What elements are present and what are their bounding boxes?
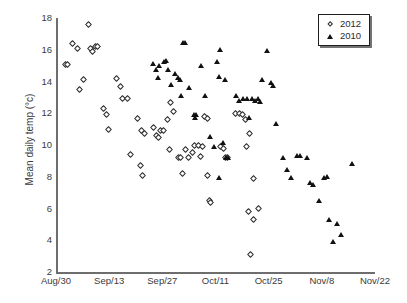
data-point-2012 xyxy=(250,216,257,223)
data-point-2010 xyxy=(217,47,223,52)
open-diamond-icon xyxy=(324,22,336,26)
data-point-2012 xyxy=(141,130,148,137)
data-point-2010 xyxy=(349,161,355,166)
data-point-2010 xyxy=(220,140,226,145)
data-point-2010 xyxy=(222,77,228,82)
scatter-chart: Mean daily temp (°c) 24681012141618 Aug/… xyxy=(0,0,407,303)
data-point-2012 xyxy=(127,151,134,158)
data-point-2012 xyxy=(170,108,177,115)
data-point-2010 xyxy=(178,93,184,98)
data-point-2010 xyxy=(186,85,192,90)
legend-label: 2010 xyxy=(340,31,361,41)
data-point-2010 xyxy=(153,67,159,72)
data-point-2010 xyxy=(207,134,213,139)
data-point-2010 xyxy=(225,155,231,160)
data-point-2012 xyxy=(134,114,141,121)
data-point-2012 xyxy=(139,172,146,179)
data-point-2012 xyxy=(243,143,250,150)
data-point-2012 xyxy=(113,75,120,82)
data-point-2010 xyxy=(284,167,290,172)
data-point-2010 xyxy=(257,99,263,104)
open-diamond-glyph xyxy=(327,21,333,27)
data-point-2010 xyxy=(202,93,208,98)
data-point-2012 xyxy=(197,153,204,160)
data-point-2012 xyxy=(179,170,186,177)
data-point-2012 xyxy=(80,76,87,83)
data-point-2010 xyxy=(182,40,188,45)
data-point-2012 xyxy=(199,143,206,150)
data-point-2012 xyxy=(64,60,71,67)
data-point-2010 xyxy=(280,155,286,160)
data-point-2012 xyxy=(103,111,110,118)
filled-triangle-icon xyxy=(324,34,336,39)
data-point-2010 xyxy=(273,121,279,126)
data-point-2012 xyxy=(204,172,211,179)
data-point-2010 xyxy=(168,82,174,87)
data-point-2010 xyxy=(324,174,330,179)
data-point-2010 xyxy=(246,115,252,120)
data-point-2010 xyxy=(214,59,220,64)
chart-legend: 20122010 xyxy=(318,14,370,46)
data-point-2010 xyxy=(198,63,204,68)
data-point-2010 xyxy=(270,83,276,88)
data-point-2012 xyxy=(137,162,144,169)
data-point-2012 xyxy=(74,45,81,52)
data-point-2010 xyxy=(338,232,344,237)
data-point-2010 xyxy=(216,175,222,180)
data-point-2012 xyxy=(105,126,112,133)
data-point-2010 xyxy=(259,77,265,82)
data-point-2010 xyxy=(155,75,161,80)
data-point-2010 xyxy=(310,182,316,187)
data-point-2010 xyxy=(192,115,198,120)
legend-entry-2012: 2012 xyxy=(324,18,361,30)
data-point-2010 xyxy=(264,48,270,53)
data-point-2012 xyxy=(164,116,171,123)
data-point-2010 xyxy=(163,58,169,63)
data-point-2010 xyxy=(165,67,171,72)
data-point-2012 xyxy=(247,251,254,258)
data-point-2012 xyxy=(85,21,92,28)
data-point-2010 xyxy=(297,153,303,158)
data-point-2010 xyxy=(326,217,332,222)
data-point-2012 xyxy=(76,86,83,93)
data-point-2012 xyxy=(124,95,131,102)
data-point-2012 xyxy=(255,205,262,212)
data-point-2010 xyxy=(304,155,310,160)
filled-triangle-glyph xyxy=(327,34,333,39)
data-point-2012 xyxy=(245,208,252,215)
data-point-2012 xyxy=(182,146,189,153)
data-point-2012 xyxy=(250,175,257,182)
data-point-2010 xyxy=(177,77,183,82)
legend-label: 2012 xyxy=(340,19,361,29)
data-point-2012 xyxy=(246,130,253,137)
data-point-2012 xyxy=(117,83,124,90)
data-point-2010 xyxy=(211,144,217,149)
data-point-2012 xyxy=(167,99,174,106)
data-point-2010 xyxy=(316,198,322,203)
data-point-2012 xyxy=(166,146,173,153)
data-point-2010 xyxy=(330,239,336,244)
data-point-2010 xyxy=(334,221,340,226)
legend-entry-2010: 2010 xyxy=(324,30,361,42)
data-point-2010 xyxy=(288,175,294,180)
data-point-2012 xyxy=(185,154,192,161)
